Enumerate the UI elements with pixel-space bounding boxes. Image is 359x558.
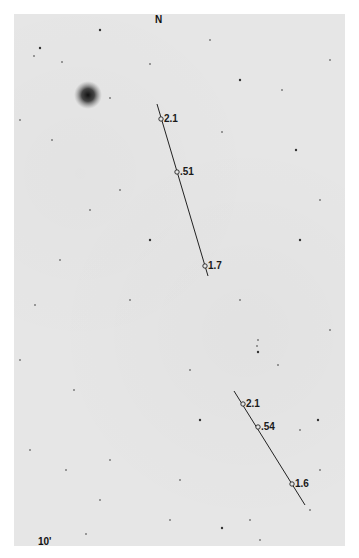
- track-point-label: 2.1: [246, 399, 260, 409]
- track-point-marker: [159, 117, 163, 121]
- track-upper: [157, 104, 208, 276]
- star: [239, 79, 241, 81]
- star: [277, 364, 279, 366]
- star: [85, 533, 87, 535]
- track-point-label: .54: [261, 422, 275, 432]
- star: [33, 55, 35, 57]
- star: [249, 519, 251, 521]
- star: [89, 209, 91, 211]
- photographic-plate: [14, 14, 345, 546]
- star: [109, 97, 111, 99]
- star: [281, 89, 283, 91]
- star: [319, 199, 321, 201]
- star: [169, 519, 171, 521]
- star: [99, 29, 101, 31]
- star: [221, 527, 223, 529]
- track-point-label: 1.7: [208, 261, 222, 271]
- star: [259, 539, 261, 541]
- star: [65, 469, 67, 471]
- star: [149, 63, 151, 65]
- star: [109, 459, 111, 461]
- star: [19, 119, 21, 121]
- track-point-marker: [241, 402, 245, 406]
- star: [179, 479, 181, 481]
- star: [51, 139, 53, 141]
- scale-label: 10': [38, 536, 52, 547]
- star: [221, 131, 223, 133]
- star: [257, 339, 259, 341]
- track-point-label: 1.6: [295, 479, 309, 489]
- star: [189, 369, 191, 371]
- star: [39, 47, 41, 49]
- star: [34, 304, 36, 306]
- bright-star-blob: [74, 81, 102, 109]
- star: [209, 39, 211, 41]
- star-field: [14, 14, 345, 546]
- star: [309, 509, 311, 511]
- star: [73, 389, 75, 391]
- star: [295, 149, 297, 151]
- star: [299, 429, 301, 431]
- star: [256, 345, 258, 347]
- track-line: [157, 104, 208, 276]
- star: [149, 239, 151, 241]
- star: [317, 419, 319, 421]
- star: [239, 299, 241, 301]
- star: [29, 449, 31, 451]
- star: [59, 259, 61, 261]
- star: [329, 59, 331, 61]
- star: [61, 61, 63, 63]
- north-orientation-label: N: [155, 14, 162, 25]
- track-point-marker: [203, 264, 207, 268]
- star: [319, 469, 321, 471]
- star: [99, 499, 101, 501]
- star: [129, 299, 131, 301]
- star: [257, 351, 259, 353]
- star: [199, 419, 201, 421]
- track-point-label: .51: [180, 167, 194, 177]
- star: [119, 189, 121, 191]
- track-point-marker: [256, 425, 260, 429]
- star: [329, 329, 331, 331]
- track-point-label: 2.1: [164, 114, 178, 124]
- star: [19, 359, 21, 361]
- track-point-marker: [175, 170, 179, 174]
- track-point-marker: [290, 482, 294, 486]
- star: [299, 239, 301, 241]
